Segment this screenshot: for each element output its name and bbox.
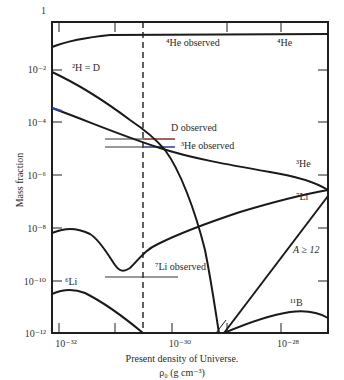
label-li6: ⁶Li xyxy=(65,276,78,287)
label-li7-observed: ⁷Li observed xyxy=(155,261,206,272)
y-tick-1e-6: 10⁻⁶ xyxy=(27,170,46,181)
label-a12: A ≥ 12 xyxy=(292,244,319,255)
label-d: ²H = D xyxy=(72,62,100,73)
label-b11: ¹¹B xyxy=(290,297,303,308)
x-tick-1e-30: 10⁻³⁰ xyxy=(169,338,191,349)
d-curve xyxy=(52,72,219,333)
y-tick-1: 1 xyxy=(41,5,46,16)
label-d-observed: D observed xyxy=(171,122,217,133)
label-he3: ³He xyxy=(296,158,311,169)
x-axis-label: Present density of Universe. xyxy=(126,353,239,364)
y-tick-1e-12: 10⁻¹² xyxy=(25,328,46,339)
y-tick-1e-2: 10⁻² xyxy=(28,64,46,75)
label-he4-observed: ⁴He observed xyxy=(166,37,220,48)
x-tick-1e-32: 10⁻³² xyxy=(55,338,76,349)
y-tick-1e-4: 10⁻⁴ xyxy=(27,117,46,128)
label-he3-observed: ³He observed xyxy=(181,140,234,151)
top-ticks xyxy=(59,22,281,32)
x-tick-1e-28: 10⁻²⁸ xyxy=(277,338,299,349)
y-tick-1e-8: 10⁻⁸ xyxy=(27,223,46,234)
b11-curve xyxy=(224,311,328,333)
left-ticks xyxy=(52,70,62,281)
li6-curve xyxy=(52,290,143,333)
nucleosynthesis-chart: 1 10⁻² 10⁻⁴ 10⁻⁶ 10⁻⁸ 10⁻¹⁰ 10⁻¹² 10⁻³² … xyxy=(0,0,344,380)
x-axis-units: ρ₀ (g cm⁻³) xyxy=(159,367,205,379)
label-he4: ⁴He xyxy=(277,37,293,48)
right-ticks xyxy=(318,70,328,281)
curves xyxy=(52,34,328,333)
y-axis-label: Mass fraction xyxy=(14,153,25,208)
label-li7: ⁷Li xyxy=(296,191,309,202)
y-tick-1e-10: 10⁻¹⁰ xyxy=(24,276,46,287)
